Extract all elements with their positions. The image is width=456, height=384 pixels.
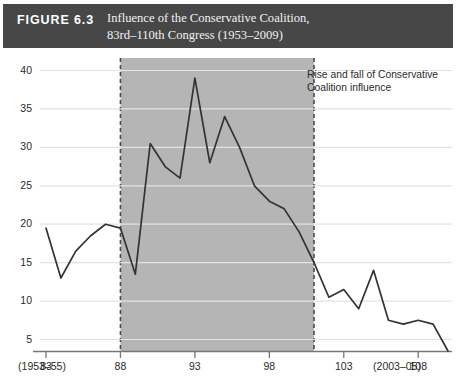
legend-label: Rise and fall of Conservative Coalition … [307, 69, 456, 94]
x-axis-ticks-group [46, 352, 418, 359]
x-range-label-left: (1953–55) [0, 360, 87, 372]
legend-label-line-1: Rise and fall of Conservative [307, 69, 438, 80]
y-axis-tick-label: 25 [6, 179, 32, 191]
legend-label-line-2: Coalition influence [307, 82, 456, 95]
figure-title-line-1: Influence of the Conservative Coalition, [107, 11, 310, 25]
line-chart-plot [0, 48, 456, 384]
shaded-region-rect [120, 58, 314, 351]
figure-header-bar: FIGURE 6.3 Influence of the Conservative… [3, 4, 453, 48]
y-axis-tick-label: 30 [6, 140, 32, 152]
figure-number-label: FIGURE 6.3 [17, 13, 94, 27]
y-axis-tick-label: 10 [6, 294, 32, 306]
figure-title-line-2: 83rd–110th Congress (1953–2009) [107, 27, 310, 44]
y-axis-tick-label: 35 [6, 102, 32, 114]
figure-title: Influence of the Conservative Coalition,… [107, 10, 310, 43]
x-axis-tick-label: 88 [100, 360, 140, 372]
x-axis-tick-label: 93 [175, 360, 215, 372]
y-axis-tick-label: 20 [6, 217, 32, 229]
legend-swatch-icon [294, 73, 302, 81]
x-axis-tick-label: 98 [249, 360, 289, 372]
y-axis-tick-label: 15 [6, 256, 32, 268]
y-axis-tick-label: 5 [6, 333, 32, 345]
y-axis-tick-label: 40 [6, 64, 32, 76]
x-range-label-right: (2003–05) [352, 360, 442, 372]
chart-container: 510152025303540 83889398103108 (1953–55)… [0, 48, 456, 384]
